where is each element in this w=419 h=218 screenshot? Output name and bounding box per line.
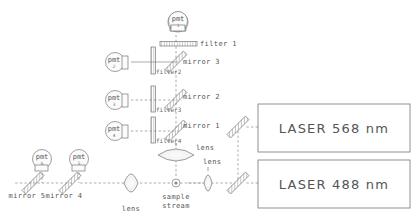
pmt-3-number: 3 bbox=[113, 102, 116, 107]
laser-488-box[interactable]: LASER 488 nm bbox=[258, 160, 410, 208]
mirror-2-label: mirror 2 bbox=[183, 93, 220, 101]
pmt-2[interactable]: pmt 2 bbox=[106, 53, 129, 72]
lens-forward[interactable]: lens bbox=[203, 158, 221, 191]
pmt-2-number: 2 bbox=[113, 64, 116, 69]
pmt-3-label: pmt bbox=[108, 94, 121, 102]
pmt-group: pmt 1 pmt 2 pmt 3 pmt 4 pmt 5 bbox=[33, 12, 188, 172]
mirror-1-label: mirror 1 bbox=[183, 122, 220, 130]
filter-1[interactable]: filter 1 bbox=[160, 40, 237, 48]
pmt-1[interactable]: pmt 1 bbox=[168, 12, 188, 32]
pmt-1-number: 1 bbox=[177, 23, 180, 28]
pmt-3[interactable]: pmt 3 bbox=[106, 91, 129, 110]
pmt-6-label: pmt bbox=[36, 153, 49, 161]
laser-568-box[interactable]: LASER 568 nm bbox=[258, 104, 410, 152]
pmt-1-label: pmt bbox=[172, 15, 185, 23]
pmt-6[interactable]: pmt 6 bbox=[33, 150, 52, 172]
sample-stream-label-1: sample bbox=[162, 193, 190, 201]
lens-collection-label: lens bbox=[196, 144, 214, 152]
sample-stream[interactable]: sample stream bbox=[162, 179, 190, 210]
mirror-5[interactable]: mirror 5 bbox=[9, 172, 46, 200]
lens-scatter[interactable]: lens bbox=[122, 174, 140, 213]
pmt-6-number: 6 bbox=[41, 161, 44, 166]
filter-1-label: filter 1 bbox=[200, 40, 237, 48]
pmt-2-label: pmt bbox=[108, 56, 121, 64]
mirror-5-label: mirror 5 bbox=[9, 192, 46, 200]
laser-568-label: LASER 568 nm bbox=[279, 121, 389, 136]
laser-488-label: LASER 488 nm bbox=[279, 177, 389, 192]
mirror-3-label: mirror 3 bbox=[183, 58, 220, 66]
pmt-4-number: 4 bbox=[113, 133, 116, 138]
mirror-laser-568[interactable] bbox=[227, 116, 249, 138]
pmt-4[interactable]: pmt 4 bbox=[106, 122, 129, 141]
laser-group: LASER 568 nm LASER 488 nm bbox=[258, 104, 410, 208]
pmt-5-label: pmt bbox=[73, 153, 86, 161]
lens-scatter-label: lens bbox=[122, 205, 140, 213]
flow-cytometer-diagram: pmt 1 pmt 2 pmt 3 pmt 4 pmt 5 bbox=[0, 0, 419, 218]
sample-stream-label-2: stream bbox=[162, 202, 190, 210]
pmt-4-label: pmt bbox=[108, 125, 121, 133]
mirror-4[interactable]: mirror 4 bbox=[46, 172, 83, 200]
diagram-canvas: pmt 1 pmt 2 pmt 3 pmt 4 pmt 5 bbox=[0, 0, 419, 218]
pmt-5-number: 5 bbox=[78, 161, 81, 166]
mirror-4-label: mirror 4 bbox=[46, 192, 83, 200]
lens-forward-label: lens bbox=[203, 158, 221, 166]
pmt-5[interactable]: pmt 5 bbox=[70, 150, 89, 172]
